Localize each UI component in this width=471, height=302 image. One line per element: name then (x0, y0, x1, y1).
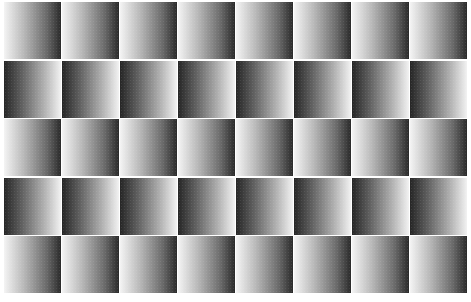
gradient-tile (236, 178, 293, 235)
gradient-tile (294, 178, 351, 235)
gradient-tile (352, 178, 409, 235)
gradient-tile (120, 2, 177, 59)
gradient-tile (294, 236, 351, 293)
gradient-tile (352, 61, 409, 118)
gradient-tile (62, 61, 119, 118)
gradient-tile (62, 178, 119, 235)
gradient-tile (62, 119, 119, 176)
gradient-tile (178, 119, 235, 176)
gradient-tile (120, 236, 177, 293)
gradient-tile (120, 178, 177, 235)
gradient-tile (4, 236, 61, 293)
gradient-tile (236, 61, 293, 118)
gradient-tile (4, 119, 61, 176)
gradient-tile (120, 119, 177, 176)
gradient-tile (120, 61, 177, 118)
gradient-tile (410, 61, 467, 118)
gradient-tile (294, 61, 351, 118)
gradient-tile (4, 2, 61, 59)
gradient-tile (178, 2, 235, 59)
gradient-tile (236, 236, 293, 293)
gradient-tile (62, 236, 119, 293)
gradient-tile-grid (4, 2, 467, 293)
gradient-tile (294, 2, 351, 59)
gradient-tile (4, 61, 61, 118)
gradient-tile (352, 2, 409, 59)
gradient-tile (178, 178, 235, 235)
gradient-tile (352, 119, 409, 176)
gradient-tile (4, 178, 61, 235)
gradient-tile (178, 236, 235, 293)
gradient-tile (294, 119, 351, 176)
gradient-tile (178, 61, 235, 118)
gradient-tile (62, 2, 119, 59)
gradient-tile (410, 119, 467, 176)
gradient-tile (410, 2, 467, 59)
gradient-tile (236, 2, 293, 59)
gradient-tile (410, 236, 467, 293)
gradient-tile (236, 119, 293, 176)
gradient-tile (352, 236, 409, 293)
gradient-tile (410, 178, 467, 235)
